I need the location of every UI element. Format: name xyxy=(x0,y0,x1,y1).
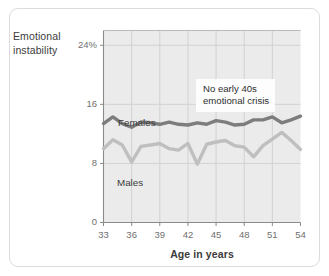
x-tick-label: 39 xyxy=(148,229,172,240)
series-label-females: Females xyxy=(118,117,156,128)
x-tick-label: 36 xyxy=(120,229,144,240)
y-tick-label: 0 xyxy=(63,216,97,227)
x-tick-label: 45 xyxy=(204,229,228,240)
annotation-no-early-40s-crisis: No early 40s emotional crisis xyxy=(196,79,275,112)
y-tick-label: 16 xyxy=(63,98,97,109)
annotation-line-1: No early 40s xyxy=(203,83,269,95)
x-tick-label: 42 xyxy=(176,229,200,240)
x-tick-label: 33 xyxy=(92,229,116,240)
series-label-males: Males xyxy=(117,177,143,188)
annotation-line-2: emotional crisis xyxy=(203,95,269,107)
y-tick-label: 8 xyxy=(63,157,97,168)
x-tick-label: 51 xyxy=(260,229,284,240)
x-tick-label: 54 xyxy=(289,229,313,240)
y-tick-label: 24% xyxy=(63,39,97,50)
x-tick-label: 48 xyxy=(232,229,256,240)
x-axis-title: Age in years xyxy=(103,248,301,260)
